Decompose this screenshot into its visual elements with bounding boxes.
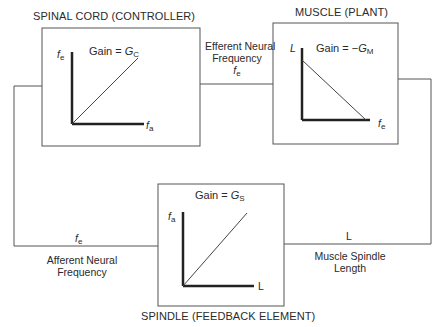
plant-y-axis-label: L	[290, 42, 296, 54]
controller-y-axis-label: fe	[57, 48, 64, 64]
feedback-gain-label: Gain = GS	[195, 189, 245, 205]
controller-title: SPINAL CORD (CONTROLLER)	[33, 10, 195, 22]
plant-gain-line	[302, 60, 366, 120]
length-signal-symbol: L	[346, 230, 352, 242]
feedback-y-axis-label: fa	[168, 210, 175, 226]
feedback-x-axis-label: L	[258, 280, 264, 292]
efferent-signal-label: Efferent Neural Frequency fe	[205, 40, 269, 80]
feedback-gain-line	[183, 213, 247, 286]
plant-x-axis-label: fe	[378, 117, 385, 133]
plant-title: MUSCLE (PLANT)	[295, 6, 388, 18]
controller-gain-line	[72, 58, 138, 124]
length-signal-label: Muscle Spindle Length	[312, 250, 388, 274]
length-connector	[284, 79, 431, 244]
afferent-signal-label: Afferent Neural Frequency	[44, 254, 120, 278]
controller-gain-label: Gain = GC	[89, 45, 139, 61]
controller-x-axis-label: fa	[146, 119, 153, 135]
afferent-signal-symbol: fe	[75, 232, 82, 248]
feedback-title: SPINDLE (FEEDBACK ELEMENT)	[141, 310, 315, 322]
plant-gain-label: Gain = −GM	[316, 42, 373, 58]
